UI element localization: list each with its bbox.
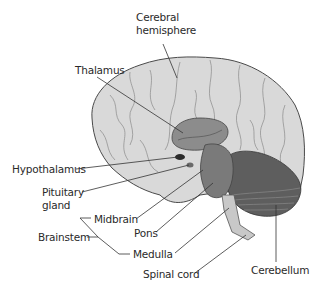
label-thalamus: Thalamus (75, 64, 125, 76)
label-midbrain: Midbrain (94, 213, 138, 225)
label-cerebral-hemisphere-1: Cerebral (136, 11, 179, 23)
label-pituitary-2: gland (42, 199, 70, 211)
label-medulla: Medulla (133, 248, 173, 260)
label-hypothalamus: Hypothalamus (12, 163, 86, 175)
label-spinal-cord: Spinal cord (143, 268, 199, 280)
label-brainstem: Brainstem (38, 231, 90, 243)
label-pituitary-1: Pituitary (42, 186, 84, 198)
label-pons: Pons (134, 227, 158, 239)
label-cerebellum: Cerebellum (251, 264, 309, 276)
label-cerebral-hemisphere-2: hemisphere (136, 24, 196, 36)
